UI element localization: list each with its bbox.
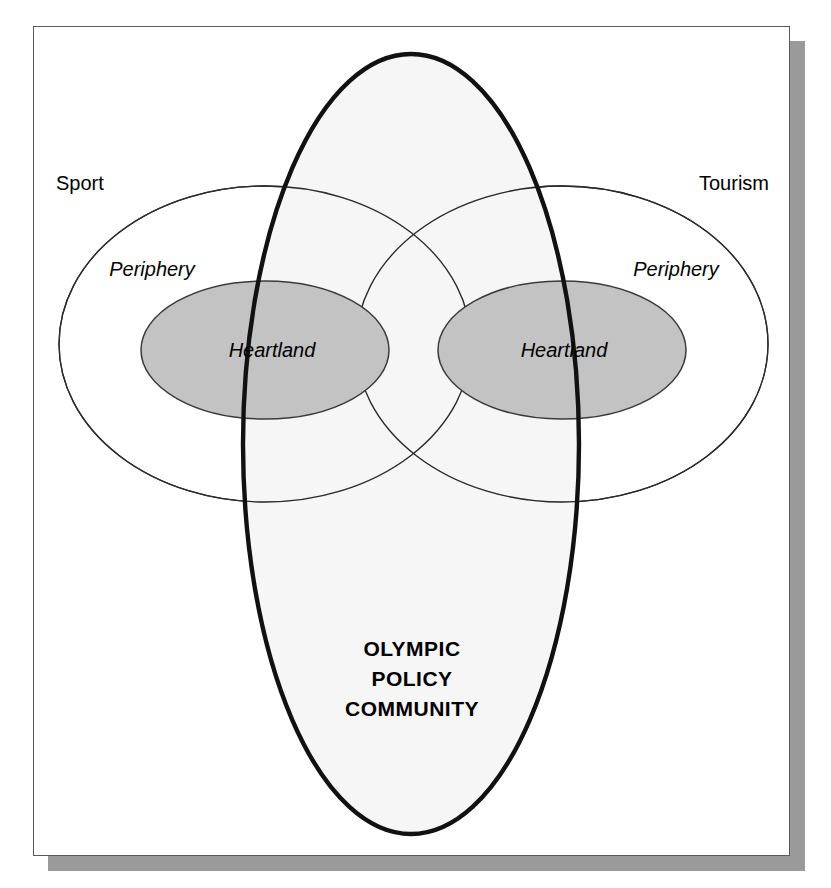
venn-diagram-canvas: Sport Tourism Periphery Periphery Heartl… [34,27,790,856]
sport-periphery-label: Periphery [109,258,196,280]
sport-label: Sport [56,172,104,194]
tourism-periphery-label: Periphery [633,258,720,280]
figure-frame: Sport Tourism Periphery Periphery Heartl… [33,26,790,856]
tourism-heartland-label: Heartland [521,339,609,361]
tourism-label: Tourism [699,172,769,194]
community-label-line3: COMMUNITY [345,697,479,720]
figure-page: Sport Tourism Periphery Periphery Heartl… [0,0,831,888]
community-label-line1: OLYMPIC [363,637,460,660]
community-label-line2: POLICY [371,667,452,690]
sport-heartland-label: Heartland [229,339,317,361]
